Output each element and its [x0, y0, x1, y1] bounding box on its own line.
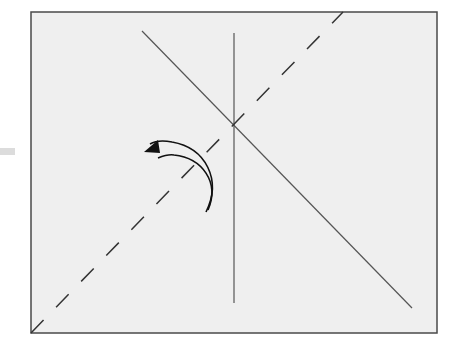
rotation-diagram — [0, 0, 462, 349]
